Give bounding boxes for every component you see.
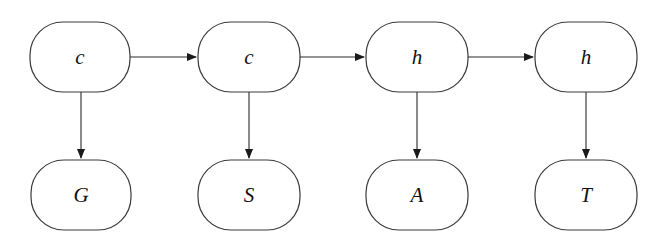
hidden-node-1-label: c (75, 45, 85, 69)
hidden-node-2: c (198, 22, 300, 92)
observed-node-2: S (198, 160, 300, 230)
observed-node-2-label: S (244, 183, 255, 207)
hidden-node-2-label: c (244, 45, 254, 69)
hidden-node-3-label: h (412, 45, 423, 69)
observed-node-4: T (535, 160, 637, 230)
hmm-diagram: c c h h G S A T (0, 0, 665, 241)
observed-node-3-label: A (409, 183, 424, 207)
observed-node-1: G (31, 160, 131, 230)
observed-node-1-label: G (73, 183, 88, 207)
observed-node-4-label: T (580, 183, 593, 207)
observed-node-3: A (366, 160, 468, 230)
hidden-node-4: h (535, 22, 637, 92)
hidden-node-3: h (366, 22, 468, 92)
hidden-node-4-label: h (581, 45, 592, 69)
hidden-node-1: c (30, 22, 130, 92)
